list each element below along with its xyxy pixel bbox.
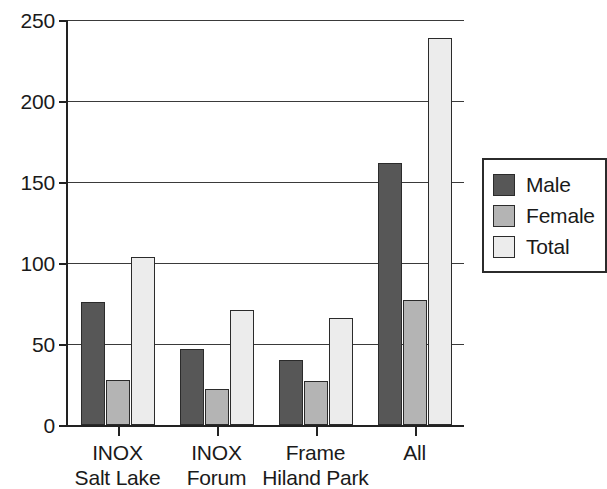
y-axis-tick bbox=[59, 344, 68, 346]
legend-item-female: Female bbox=[493, 200, 595, 231]
y-axis-label: 0 bbox=[44, 415, 55, 436]
gridline bbox=[68, 101, 464, 102]
bar-female-4 bbox=[403, 300, 427, 425]
legend-label: Male bbox=[526, 174, 571, 195]
bar-male-1 bbox=[81, 302, 105, 425]
x-axis-label: INOXForum bbox=[187, 441, 247, 489]
y-axis-label: 50 bbox=[32, 334, 55, 355]
x-axis-label: INOXSalt Lake bbox=[75, 441, 161, 489]
bar-total-3 bbox=[329, 318, 353, 425]
x-axis-label-line: INOX bbox=[75, 441, 161, 466]
x-axis-tick bbox=[316, 425, 318, 436]
y-axis-tick bbox=[59, 425, 68, 427]
bar-female-2 bbox=[205, 389, 229, 425]
bar-female-3 bbox=[304, 381, 328, 425]
x-axis-label-line: Frame bbox=[262, 441, 368, 466]
x-axis-label-line: All bbox=[403, 441, 426, 466]
bar-total-2 bbox=[230, 310, 254, 425]
bar-total-1 bbox=[131, 257, 155, 425]
gridline bbox=[68, 182, 464, 183]
x-axis-label-line: INOX bbox=[187, 441, 247, 466]
bar-male-3 bbox=[279, 360, 303, 425]
legend-label: Total bbox=[526, 236, 569, 257]
x-axis-tick bbox=[118, 425, 120, 436]
y-axis-tick bbox=[59, 101, 68, 103]
bar-male-2 bbox=[180, 349, 204, 425]
x-axis-label-line: Hiland Park bbox=[262, 466, 368, 489]
legend-item-total: Total bbox=[493, 231, 595, 262]
y-axis-label: 100 bbox=[21, 253, 55, 274]
x-axis-label: All bbox=[403, 441, 426, 466]
y-axis-tick bbox=[59, 182, 68, 184]
x-axis-label: FrameHiland Park bbox=[262, 441, 368, 489]
gridline bbox=[68, 20, 464, 21]
x-axis-tick bbox=[415, 425, 417, 436]
y-axis-label: 150 bbox=[21, 172, 55, 193]
y-axis-tick bbox=[59, 20, 68, 22]
x-axis-label-line: Forum bbox=[187, 466, 247, 489]
y-axis-label: 250 bbox=[21, 10, 55, 31]
male-swatch-icon bbox=[493, 174, 515, 196]
total-swatch-icon bbox=[493, 236, 515, 258]
bar-total-4 bbox=[428, 38, 452, 425]
gridline bbox=[68, 263, 464, 264]
x-axis-tick bbox=[217, 425, 219, 436]
y-axis-tick bbox=[59, 263, 68, 265]
plot-area: 050100150200250INOXSalt LakeINOXForumFra… bbox=[66, 20, 464, 427]
legend-item-male: Male bbox=[493, 169, 595, 200]
female-swatch-icon bbox=[493, 205, 515, 227]
bar-female-1 bbox=[106, 380, 130, 425]
bar-male-4 bbox=[378, 163, 402, 425]
legend-label: Female bbox=[526, 205, 595, 226]
y-axis-label: 200 bbox=[21, 91, 55, 112]
x-axis-label-line: Salt Lake bbox=[75, 466, 161, 489]
chart-legend: MaleFemaleTotal bbox=[482, 158, 607, 273]
